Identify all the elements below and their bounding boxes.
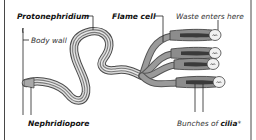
label-protonephridium: Protonephridium [17,12,89,21]
protonephridium-diagram: Protonephridium Flame cell Waste enters … [0,0,256,140]
label-waste-enters-here: Waste enters here [176,12,244,21]
flame-cell-3 [174,58,219,69]
label-cilia-bold: cilia [220,119,237,128]
label-flame-cell: Flame cell [112,12,156,21]
label-body-wall: Body wall [31,36,68,45]
flame-cell-2 [171,47,221,58]
label-cilia-prefix: Bunches of [177,119,220,128]
nephridiopore-opening [24,78,34,88]
label-bunches-of-cilia: Bunches of cilia* [177,119,241,128]
label-cilia-suffix: * [237,119,241,128]
flame-cell-1 [170,29,221,40]
label-nephridiopore: Nephridiopore [28,119,90,128]
flame-cell-branches [142,36,176,84]
flame-cell-4 [176,76,225,87]
diagram-frame: Protonephridium Flame cell Waste enters … [0,0,256,140]
